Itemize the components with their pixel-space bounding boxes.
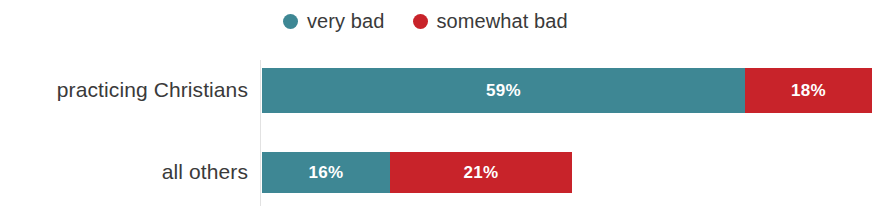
circle-dot-icon bbox=[413, 14, 428, 29]
stacked-bar: 16% 21% bbox=[262, 152, 572, 193]
bar-value-label: 16% bbox=[309, 163, 344, 183]
bar-segment-very-bad[interactable]: 16% bbox=[262, 152, 390, 193]
legend-item-very-bad[interactable]: very bad bbox=[283, 11, 385, 31]
category-label: practicing Christians bbox=[0, 78, 248, 102]
stacked-bar-chart: very bad somewhat bad practicing Christi… bbox=[0, 0, 883, 208]
bar-segment-very-bad[interactable]: 59% bbox=[262, 68, 745, 113]
bar-value-label: 59% bbox=[486, 81, 521, 101]
circle-dot-icon bbox=[283, 14, 298, 29]
chart-row: practicing Christians 59% 18% bbox=[0, 68, 883, 113]
legend-label: very bad bbox=[307, 11, 385, 31]
bar-segment-somewhat-bad[interactable]: 18% bbox=[745, 68, 872, 113]
bar-segment-somewhat-bad[interactable]: 21% bbox=[390, 152, 572, 193]
legend-label: somewhat bad bbox=[437, 11, 568, 31]
legend-item-somewhat-bad[interactable]: somewhat bad bbox=[413, 11, 568, 31]
bar-value-label: 18% bbox=[791, 81, 826, 101]
category-label: all others bbox=[0, 160, 248, 184]
chart-legend: very bad somewhat bad bbox=[283, 8, 568, 34]
stacked-bar: 59% 18% bbox=[262, 68, 872, 113]
bar-value-label: 21% bbox=[464, 163, 499, 183]
chart-row: all others 16% 21% bbox=[0, 152, 883, 193]
